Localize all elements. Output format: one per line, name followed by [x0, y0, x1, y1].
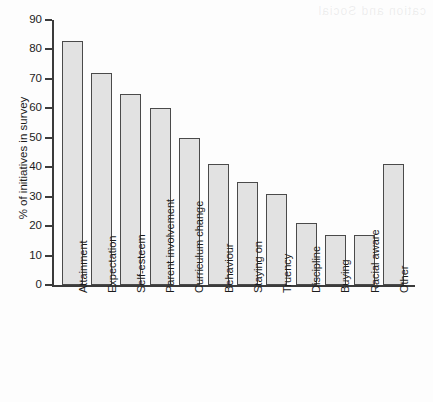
x-category-label: Expectation — [107, 236, 118, 293]
y-tick-label-wrap: 80 — [0, 43, 42, 55]
y-axis-title: % of initiatives in survey — [17, 73, 29, 243]
x-category-label: Staying on — [253, 241, 264, 293]
y-tick-mark — [45, 255, 52, 257]
y-tick-label: 80 — [0, 43, 42, 55]
y-tick-mark — [45, 19, 52, 21]
y-tick-mark — [45, 48, 52, 50]
x-category-label: Racial aware — [370, 229, 381, 293]
y-tick-mark — [45, 107, 52, 109]
x-category-label: Self-esteem — [136, 234, 147, 293]
x-category-label: Buying — [340, 259, 351, 293]
y-tick-mark — [45, 225, 52, 227]
x-category-label: Parent involvement — [165, 199, 176, 293]
y-axis-line — [52, 20, 54, 286]
y-tick-mark — [45, 137, 52, 139]
y-tick-mark — [45, 166, 52, 168]
x-category-label: Curriculum change — [194, 201, 205, 293]
x-category-label: Discipline — [311, 246, 322, 293]
x-category-label: Behaviour — [224, 243, 235, 293]
y-tick-label-wrap: 10 — [0, 250, 42, 262]
x-category-label: Other — [399, 265, 410, 293]
y-tick-label-wrap: 90 — [0, 14, 42, 26]
y-tick-label: 10 — [0, 250, 42, 262]
y-tick-mark — [45, 284, 52, 286]
y-tick-mark — [45, 196, 52, 198]
bar-chart-figure: cation and Social 0102030405060708090 % … — [0, 0, 433, 402]
y-tick-label: 90 — [0, 14, 42, 26]
x-category-label: Attainment — [78, 240, 89, 293]
y-tick-label: 0 — [0, 279, 42, 291]
y-tick-mark — [45, 78, 52, 80]
x-category-label: Truency — [282, 254, 293, 293]
y-tick-label-wrap: 0 — [0, 279, 42, 291]
plot-area: 0102030405060708090 % of initiatives in … — [0, 0, 433, 402]
